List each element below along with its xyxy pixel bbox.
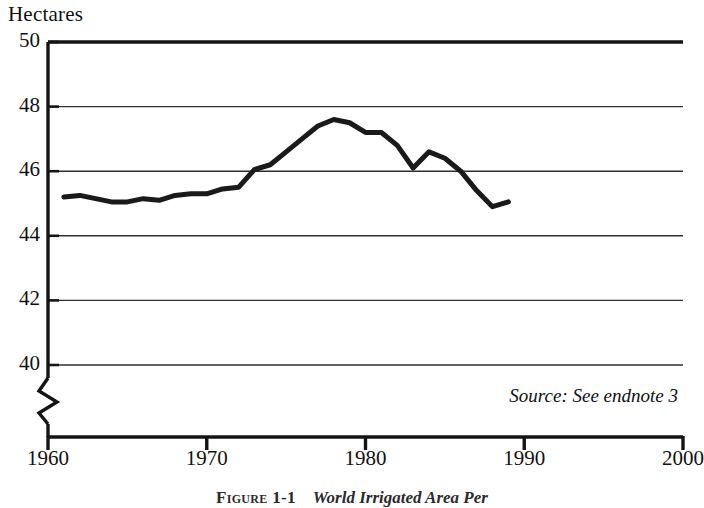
y-tick-label: 48: [0, 95, 40, 116]
plot-frame: [48, 42, 683, 437]
data-series-line: [64, 120, 509, 207]
figure-world-irrigated-area: Hectares 404244464850 196019701980199020…: [0, 0, 704, 508]
y-tick-label: 40: [0, 353, 40, 374]
y-tick-label: 46: [0, 159, 40, 180]
y-tick-label: 42: [0, 288, 40, 309]
figure-caption-title: World Irrigated Area Per: [313, 488, 488, 507]
figure-caption: Figure 1-1 World Irrigated Area Per: [0, 487, 704, 508]
y-tick-label: 50: [0, 30, 40, 51]
x-tick-label: 2000: [643, 447, 704, 469]
y-tick-label: 44: [0, 224, 40, 245]
gridlines: [48, 107, 683, 365]
x-tick-label: 1970: [167, 447, 247, 469]
x-tick-label: 1990: [484, 447, 564, 469]
figure-caption-number: Figure 1-1: [216, 488, 296, 507]
x-tick-label: 1980: [326, 447, 406, 469]
x-tick-label: 1960: [8, 447, 88, 469]
source-note: Source: See endnote 3: [509, 385, 678, 407]
y-axis-break-icon: [39, 378, 57, 424]
